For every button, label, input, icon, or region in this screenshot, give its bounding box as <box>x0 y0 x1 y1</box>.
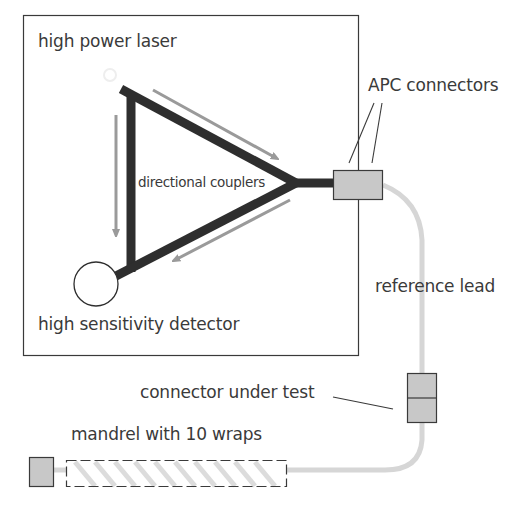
label-connector-under-test: connector under test <box>140 382 314 402</box>
laser-source-icon <box>104 69 116 81</box>
test-lead-fiber <box>287 423 422 470</box>
label-high-power-laser: high power laser <box>38 31 177 51</box>
cut-pointer <box>333 397 393 409</box>
end-termination <box>30 458 54 487</box>
apc-pointer-2 <box>372 103 382 163</box>
label-directional-couplers: directional couplers <box>138 174 265 190</box>
detector-icon <box>74 262 118 306</box>
arrow-reflected-icon <box>175 200 290 260</box>
label-mandrel: mandrel with 10 wraps <box>71 424 262 444</box>
mandrel <box>67 461 287 487</box>
label-high-sensitivity-detector: high sensitivity detector <box>38 314 239 334</box>
apc-pointer-1 <box>349 103 374 163</box>
arrow-forward-icon <box>153 90 276 158</box>
apc-connector-pair <box>334 171 383 200</box>
label-reference-lead: reference lead <box>375 276 495 296</box>
label-apc-connectors: APC connectors <box>368 75 498 95</box>
